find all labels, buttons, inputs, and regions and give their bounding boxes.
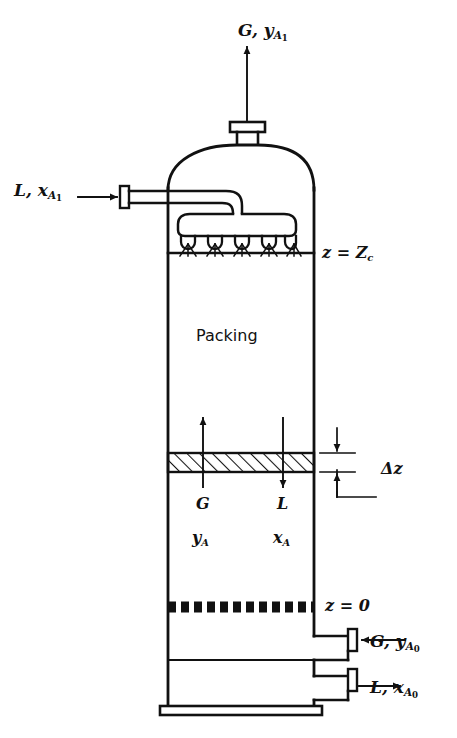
delta-z-dimension <box>320 428 376 497</box>
column-base-plate <box>160 706 322 715</box>
gas-inlet-nozzle <box>314 629 357 660</box>
liquid-inlet-pipe <box>120 186 242 214</box>
spray-distributor-header <box>178 214 296 249</box>
label-liquid-inlet: L, xA1 <box>14 180 62 203</box>
liquid-outlet-nozzle <box>314 669 357 700</box>
label-top-of-packing: z = Zc <box>322 243 373 263</box>
label-liquid-composition-mid: xA <box>273 528 290 548</box>
subscript-A: A0 <box>404 686 418 698</box>
figure-canvas: G, yA1 L, xA1 z = Zc Packing G L yA xA Δ… <box>0 0 457 738</box>
label-bottom-of-packing: z = 0 <box>325 596 370 615</box>
column-top-head <box>168 145 314 190</box>
column-shell <box>168 188 314 708</box>
label-packing-zone: Packing <box>196 326 258 345</box>
label-gas-outlet: G, yA1 <box>238 20 288 43</box>
label-liquid-outlet: L, xA0 <box>370 677 418 700</box>
subscript-A: A1 <box>48 189 62 201</box>
column-diagram-svg <box>0 0 457 738</box>
label-differential-height: Δz <box>381 459 403 478</box>
subscript-A: A1 <box>274 29 288 41</box>
label-liquid-flow-mid: L <box>277 494 288 513</box>
label-gas-flow-mid: G <box>196 494 210 513</box>
label-gas-inlet: G, yA0 <box>370 631 420 654</box>
subscript-A: A0 <box>406 640 420 652</box>
differential-element <box>168 453 314 472</box>
top-nozzle <box>230 122 265 146</box>
label-gas-composition-mid: yA <box>192 528 209 548</box>
